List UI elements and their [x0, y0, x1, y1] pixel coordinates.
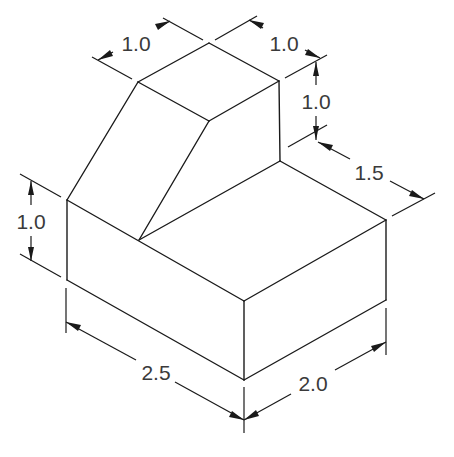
- edge-base-top-right: [244, 220, 386, 301]
- edge-top-front-right: [209, 81, 279, 121]
- dim-label-step-depth: 1.5: [354, 161, 383, 184]
- arrowhead: [409, 190, 424, 199]
- arrowhead: [371, 342, 386, 352]
- object-outline: [67, 43, 386, 380]
- edge-slope-right: [139, 121, 209, 240]
- arrowhead: [66, 322, 81, 331]
- arrowhead: [305, 49, 320, 58]
- dim-label-top-right-width: 1.0: [269, 32, 298, 55]
- arrowhead: [28, 181, 34, 195]
- edge-base-bottom-right: [244, 300, 386, 380]
- dim-label-top-left-depth: 1.0: [121, 32, 150, 55]
- drawing-canvas: 1.0 1.0 1.0 1.5 1.0 2.5 2.0: [0, 0, 454, 457]
- dimension-lines: [31, 20, 424, 420]
- arrowhead: [155, 21, 170, 30]
- dimension-labels: 1.0 1.0 1.0 1.5 1.0 2.5 2.0: [16, 32, 383, 395]
- edge-step-back: [139, 161, 280, 240]
- ext-line: [285, 55, 327, 78]
- edge-upper-right-vertical: [279, 81, 280, 161]
- dim-label-overall-width: 2.0: [298, 372, 327, 395]
- edge-slope-left: [67, 82, 138, 200]
- isometric-drawing: 1.0 1.0 1.0 1.5 1.0 2.5 2.0: [0, 0, 454, 457]
- dim-label-overall-length: 2.5: [141, 361, 170, 384]
- ext-line: [92, 57, 132, 79]
- arrowheads: [28, 20, 424, 420]
- edge-top-front-left: [138, 82, 209, 121]
- dim-label-base-height: 1.0: [16, 210, 45, 233]
- arrowhead: [244, 410, 259, 420]
- arrowhead: [318, 142, 333, 151]
- ext-line: [215, 16, 257, 40]
- edge-base-top-left: [67, 200, 244, 301]
- ext-line: [20, 174, 61, 197]
- arrowhead: [313, 62, 319, 76]
- arrowhead: [98, 50, 113, 60]
- dim-label-upper-height: 1.0: [301, 90, 330, 113]
- ext-line: [20, 254, 61, 277]
